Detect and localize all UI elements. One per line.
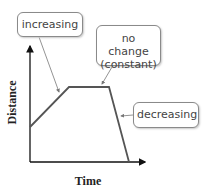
- callout-constant-line1: no change: [100, 32, 157, 58]
- pointer-increasing: [39, 37, 59, 92]
- callout-constant-line2: (constant): [100, 58, 157, 71]
- callout-increasing-text: increasing: [22, 18, 79, 31]
- y-axis-label: Distance: [5, 75, 20, 131]
- callout-decreasing-text: decreasing: [137, 108, 197, 121]
- pointer-decreasing: [121, 115, 133, 116]
- callout-constant: no change (constant): [96, 25, 161, 66]
- callout-decreasing: decreasing: [133, 102, 199, 128]
- callout-increasing: increasing: [17, 12, 83, 37]
- x-axis-label: Time: [70, 174, 106, 189]
- graph-line: [30, 87, 129, 162]
